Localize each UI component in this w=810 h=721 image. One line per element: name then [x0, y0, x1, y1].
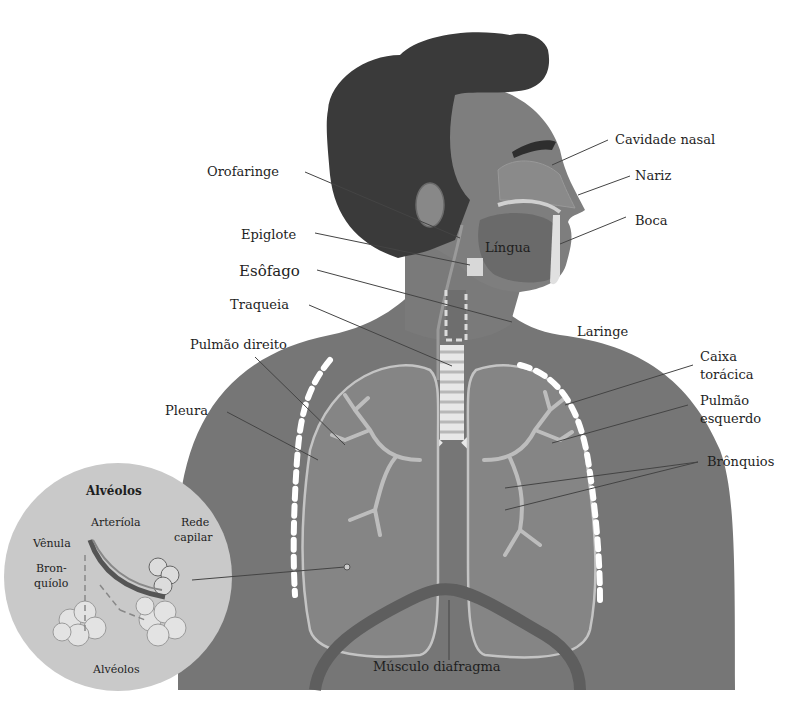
inset-label-alveolos: Alvéolos [92, 663, 140, 676]
respiratory-system-diagram: Orofaringe Epiglote Esôfago Traqueia Pul… [0, 0, 810, 721]
label-epiglote: Epiglote [241, 227, 296, 242]
inset-label-arteriola: Arteríola [90, 516, 141, 529]
label-pleura: Pleura [165, 403, 208, 418]
label-lingua: Língua [485, 240, 531, 255]
inset-label-rede-1: Rede [181, 516, 209, 529]
label-esofago: Esôfago [239, 262, 300, 280]
inset-label-venula: Vênula [32, 537, 71, 550]
larynx-shape [446, 290, 466, 340]
label-traqueia: Traqueia [230, 297, 289, 312]
ear [416, 183, 444, 227]
inset-title: Alvéolos [85, 484, 142, 498]
label-cavidade-nasal: Cavidade nasal [615, 132, 715, 147]
inset-label-bronquiolo-1: Bron- [36, 562, 67, 575]
label-caixa-toracica-2: torácica [700, 367, 754, 382]
label-pulmao-esquerdo-2: esquerdo [700, 411, 761, 426]
label-orofaringe: Orofaringe [207, 164, 279, 179]
inset-label-rede-2: capilar [174, 531, 213, 544]
alveoli-marker [344, 564, 350, 570]
label-boca: Boca [635, 213, 668, 228]
label-caixa-toracica-1: Caixa [700, 349, 737, 364]
inset-label-bronquiolo-2: quíolo [34, 577, 69, 590]
label-pulmao-esquerdo-1: Pulmão [700, 393, 749, 408]
label-laringe: Laringe [577, 324, 628, 339]
label-pulmao-direito: Pulmão direito [190, 337, 287, 352]
label-bronquios: Brônquios [707, 454, 774, 469]
epiglottis-shape [467, 258, 483, 276]
label-musculo-diafragma: Músculo diafragma [373, 659, 501, 674]
label-nariz: Nariz [635, 168, 671, 183]
